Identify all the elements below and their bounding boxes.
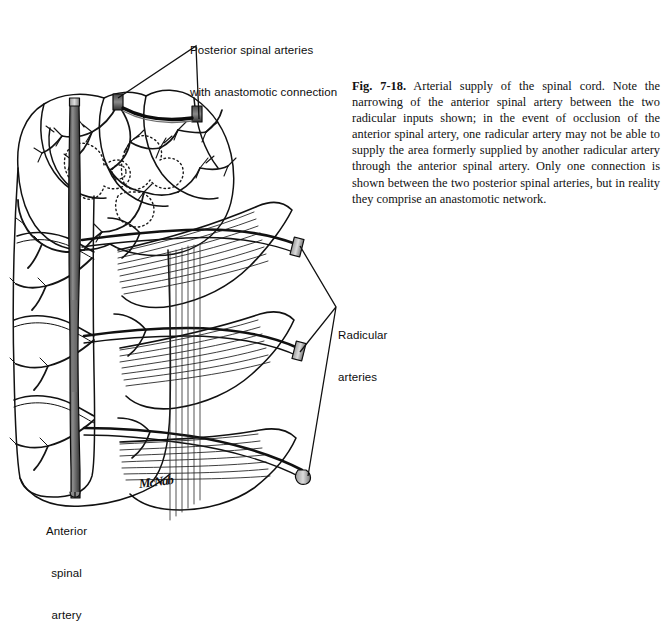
anterior-spinal-artery-narrowing bbox=[72, 300, 77, 392]
figure-caption-text: Arterial supply of the spinal cord. Note… bbox=[352, 79, 660, 206]
cord-segment-crease-2b bbox=[14, 323, 94, 343]
radicular-artery-middle-branch bbox=[114, 314, 146, 356]
leader-posterior-spinal-arteries bbox=[118, 46, 199, 119]
label-anterior-spinal-artery-line3: artery bbox=[46, 608, 87, 622]
radicular-artery-lower bbox=[84, 418, 311, 484]
label-radicular-arteries-line1: Radicular bbox=[338, 328, 387, 342]
label-posterior-spinal-arteries: Posterior spinal arteries with anastomot… bbox=[190, 15, 337, 113]
label-anterior-spinal-artery-line2: spinal bbox=[46, 566, 87, 580]
nerve-root-sheath-middle bbox=[120, 312, 294, 409]
label-posterior-spinal-arteries-line1: Posterior spinal arteries bbox=[190, 43, 337, 57]
label-radicular-arteries-line2: arteries bbox=[338, 370, 387, 384]
cord-trunk-right-edge bbox=[152, 250, 170, 482]
cord-trunk-outline bbox=[13, 168, 94, 497]
label-posterior-spinal-arteries-line2: with anastomotic connection bbox=[190, 85, 337, 99]
cord-segment-crease-3b bbox=[14, 403, 94, 423]
leader-lines bbox=[75, 46, 336, 498]
nerve-rootlet-fan-upper bbox=[118, 212, 268, 294]
cord-segment-crease-2 bbox=[14, 316, 94, 336]
radicular-artery-upper-cut-end bbox=[290, 237, 304, 257]
cord-segment-crease-3 bbox=[14, 396, 94, 416]
leader-radicular-arteries bbox=[300, 246, 336, 476]
label-radicular-arteries: Radicular arteries bbox=[338, 300, 387, 398]
figure-caption: Fig. 7-18. Arterial supply of the spinal… bbox=[352, 78, 660, 207]
label-anterior-spinal-artery: Anterior spinal artery bbox=[46, 496, 87, 625]
radicular-artery-upper bbox=[82, 218, 304, 258]
figure-number: Fig. 7-18. bbox=[352, 79, 406, 93]
label-anterior-spinal-artery-line1: Anterior bbox=[46, 524, 87, 538]
radicular-artery-middle-cut-end bbox=[292, 341, 306, 361]
radicular-artery-upper-branch bbox=[108, 218, 140, 258]
posterior-anastomotic-connection bbox=[123, 108, 192, 120]
gray-matter-outline bbox=[64, 136, 183, 227]
nerve-root-sheath-lower bbox=[120, 429, 296, 510]
anterior-spinal-artery-cut-end bbox=[70, 98, 80, 106]
cord-body-group bbox=[10, 90, 311, 520]
cord-segment-crease-1 bbox=[17, 233, 94, 252]
